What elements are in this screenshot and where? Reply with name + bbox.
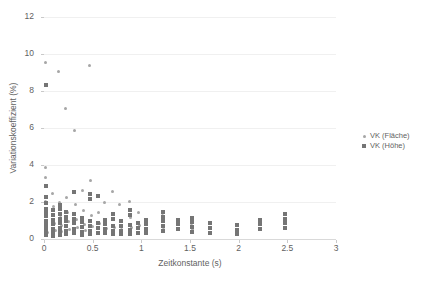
data-point	[64, 107, 67, 110]
data-point	[44, 219, 48, 223]
data-point	[96, 231, 100, 235]
y-tick-label: 4	[0, 160, 34, 169]
gridline	[44, 17, 336, 18]
data-point	[190, 225, 194, 229]
data-point	[283, 212, 287, 216]
data-point	[75, 218, 78, 221]
x-tick-label: 3	[316, 243, 356, 253]
data-point	[51, 222, 55, 226]
data-point	[67, 220, 70, 223]
data-point	[104, 218, 107, 221]
gridline	[44, 202, 336, 203]
data-point	[80, 225, 84, 229]
data-point	[90, 214, 93, 217]
data-point	[190, 230, 194, 234]
data-point	[161, 229, 165, 233]
data-point	[88, 229, 92, 233]
data-point	[144, 227, 148, 231]
legend-item-vk-hoehe[interactable]: VK (Höhe)	[360, 141, 410, 151]
data-point	[161, 219, 165, 223]
legend-circle-marker-icon	[360, 135, 368, 138]
data-point	[44, 214, 48, 218]
data-point	[44, 233, 48, 237]
data-point	[161, 224, 165, 228]
data-point	[88, 224, 92, 228]
data-point	[44, 166, 47, 169]
data-point	[64, 219, 68, 223]
data-point	[46, 231, 49, 234]
data-point	[208, 226, 212, 230]
data-point	[51, 213, 55, 217]
data-point	[103, 227, 107, 231]
data-point	[83, 223, 86, 226]
data-point	[44, 176, 47, 179]
data-point	[103, 231, 107, 235]
data-point	[97, 211, 100, 214]
data-point	[111, 232, 115, 236]
data-point	[283, 217, 287, 221]
data-point	[138, 224, 141, 227]
data-point	[44, 207, 48, 211]
data-point	[119, 224, 123, 228]
data-point	[190, 220, 194, 224]
data-point	[258, 222, 262, 226]
data-point	[80, 216, 84, 220]
data-point	[111, 224, 115, 228]
data-point	[44, 231, 48, 235]
data-point	[162, 226, 165, 229]
y-tick-label: 12	[0, 12, 34, 21]
data-point	[58, 203, 62, 207]
data-point	[88, 232, 92, 236]
data-point	[144, 231, 148, 235]
data-point	[235, 232, 239, 236]
data-point	[72, 221, 76, 225]
data-point	[44, 83, 48, 87]
scatter-chart: Variationskoeffizient (%) 024681012 00.5…	[0, 0, 446, 283]
data-point	[128, 232, 132, 236]
data-point	[120, 228, 123, 231]
data-point	[136, 226, 140, 230]
data-point	[128, 213, 132, 217]
data-point	[129, 216, 132, 219]
legend-item-vk-flaeche[interactable]: VK (Fläche)	[360, 131, 410, 141]
y-tick-label: 2	[0, 197, 34, 206]
data-point	[44, 195, 48, 199]
x-axis-title: Zeitkonstante (s)	[44, 258, 336, 269]
x-tick-label: 1	[121, 243, 161, 253]
data-point	[136, 221, 140, 225]
data-point	[283, 221, 287, 225]
data-point	[144, 222, 148, 226]
data-point	[80, 230, 84, 234]
data-point	[57, 70, 60, 73]
data-point	[64, 229, 68, 233]
data-point	[64, 215, 68, 219]
data-point	[51, 227, 55, 231]
data-point	[111, 217, 115, 221]
data-point	[58, 233, 62, 237]
data-point	[51, 218, 55, 222]
y-tick-label: 0	[0, 234, 34, 243]
data-point	[88, 64, 91, 67]
data-point	[51, 192, 54, 195]
data-point	[44, 214, 47, 217]
data-point	[80, 233, 84, 237]
data-point	[161, 214, 164, 217]
data-point	[144, 218, 148, 222]
data-point	[82, 209, 85, 212]
data-point	[60, 230, 63, 233]
data-point	[74, 203, 77, 206]
legend-label-vk-flaeche: VK (Fläche)	[370, 131, 410, 141]
data-point	[64, 224, 68, 228]
data-point	[88, 192, 92, 196]
data-point	[88, 219, 92, 223]
data-point	[59, 216, 62, 219]
data-point	[128, 228, 132, 232]
data-point	[66, 211, 69, 214]
data-point	[72, 231, 76, 235]
data-point	[58, 207, 62, 211]
data-point	[103, 222, 107, 226]
data-point	[91, 225, 94, 228]
data-point	[258, 218, 262, 222]
data-point	[53, 222, 56, 225]
data-point	[119, 219, 123, 223]
